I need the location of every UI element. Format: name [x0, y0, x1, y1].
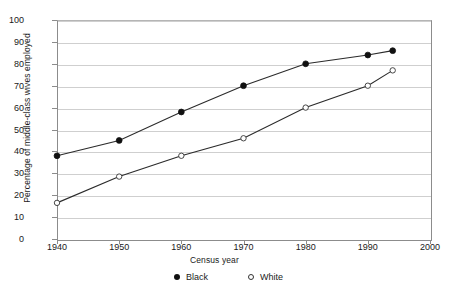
y-tick-label: 40 — [0, 147, 24, 156]
x-tick-label: 2000 — [410, 243, 450, 252]
data-point-black — [365, 52, 371, 58]
legend-item-black: Black — [174, 272, 208, 282]
data-point-black — [241, 83, 247, 89]
data-point-white — [241, 136, 246, 141]
data-point-white — [390, 68, 395, 73]
data-layer — [57, 20, 430, 239]
data-point-black — [178, 109, 184, 115]
data-point-black — [303, 61, 309, 67]
x-tick-label: 1980 — [286, 243, 326, 252]
legend-label: White — [260, 272, 283, 282]
data-point-black — [390, 48, 396, 54]
x-tick-mark — [430, 240, 431, 244]
data-point-black — [54, 153, 60, 159]
x-tick-label: 1990 — [348, 243, 388, 252]
y-tick-label: 10 — [0, 213, 24, 222]
x-tick-mark — [244, 240, 245, 244]
y-tick-label: 70 — [0, 82, 24, 91]
x-axis-title: Census year — [190, 255, 239, 265]
x-tick-label: 1970 — [224, 243, 264, 252]
x-tick-mark — [57, 240, 58, 244]
x-tick-label: 1940 — [37, 243, 77, 252]
x-tick-label: 1950 — [99, 243, 139, 252]
y-tick-label: 0 — [0, 235, 24, 244]
chart-figure: Percentage of middle-class wives employe… — [0, 0, 457, 297]
filled-circle-icon — [174, 274, 180, 280]
open-circle-icon — [248, 274, 254, 280]
data-point-black — [116, 138, 122, 144]
legend-item-white: White — [248, 272, 283, 282]
x-tick-mark — [119, 240, 120, 244]
data-point-white — [179, 153, 184, 158]
y-tick-label: 50 — [0, 126, 24, 135]
data-point-white — [303, 105, 308, 110]
y-tick-label: 30 — [0, 169, 24, 178]
legend-label: Black — [186, 272, 208, 282]
data-point-white — [54, 200, 59, 205]
y-axis-title: Percentage of middle-class wives employe… — [22, 0, 40, 238]
y-tick-label: 60 — [0, 104, 24, 113]
series-line-white — [57, 70, 393, 203]
y-tick-label: 80 — [0, 60, 24, 69]
data-point-white — [365, 83, 370, 88]
data-point-white — [116, 174, 121, 179]
x-tick-label: 1960 — [161, 243, 201, 252]
y-tick-label: 100 — [0, 16, 24, 25]
x-tick-mark — [181, 240, 182, 244]
chart-legend: BlackWhite — [0, 272, 457, 282]
series-line-black — [57, 51, 393, 156]
x-tick-mark — [368, 240, 369, 244]
y-tick-label: 20 — [0, 191, 24, 200]
x-tick-mark — [306, 240, 307, 244]
y-tick-label: 90 — [0, 38, 24, 47]
